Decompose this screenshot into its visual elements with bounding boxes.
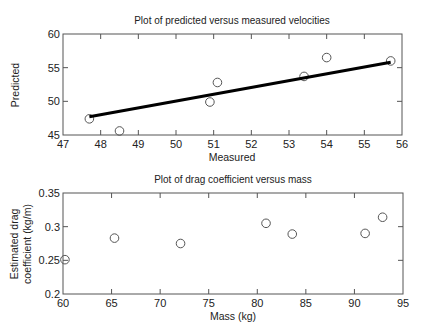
data-point-marker <box>262 219 271 228</box>
x-tick-label: 65 <box>105 297 117 309</box>
x-tick-label: 70 <box>154 297 166 309</box>
data-point-marker <box>213 78 222 87</box>
data-point-marker <box>206 98 215 107</box>
x-axis-label: Measured <box>209 151 256 163</box>
axis-ticks: 60657075808590950.20.250.30.35 <box>39 187 410 309</box>
x-tick-label: 51 <box>208 138 220 150</box>
axis-ticks: 4748495051525354555645505560 <box>48 28 408 150</box>
y-tick-label: 55 <box>48 62 60 74</box>
y-tick-label: 60 <box>48 28 60 40</box>
plot-frame <box>63 34 402 135</box>
y-axis-label-line-1: Estimated drag <box>8 209 20 280</box>
data-point-marker <box>378 213 387 222</box>
x-tick-label: 55 <box>358 138 370 150</box>
data-point-marker <box>176 239 185 248</box>
x-tick-label: 53 <box>283 138 295 150</box>
data-point-marker <box>361 229 370 238</box>
y-tick-label: 45 <box>48 129 60 141</box>
chart-title: Plot of predicted versus measured veloci… <box>134 15 330 26</box>
chart-title: Plot of drag coefficient versus mass <box>154 174 312 185</box>
x-tick-label: 80 <box>251 297 263 309</box>
x-tick-label: 48 <box>95 138 107 150</box>
data-series <box>61 213 387 264</box>
data-series <box>85 53 395 135</box>
x-tick-label: 50 <box>170 138 182 150</box>
y-tick-label: 0.35 <box>39 187 60 199</box>
x-tick-label: 90 <box>348 297 360 309</box>
x-axis-label: Mass (kg) <box>210 310 256 322</box>
y-tick-label: 0.3 <box>45 221 60 233</box>
x-tick-label: 95 <box>397 297 409 309</box>
x-tick-label: 85 <box>300 297 312 309</box>
data-point-marker <box>115 127 124 136</box>
x-tick-label: 75 <box>203 297 215 309</box>
y-tick-label: 0.2 <box>45 288 60 300</box>
y-axis-label: Predicted <box>9 63 21 108</box>
plot-frame <box>63 193 403 294</box>
axes-box <box>63 193 403 294</box>
data-point-marker <box>288 230 297 239</box>
data-point-marker <box>110 234 119 243</box>
x-tick-label: 49 <box>132 138 144 150</box>
velocity-chart: Plot of predicted versus measured veloci… <box>9 15 408 163</box>
figure: Plot of predicted versus measured veloci… <box>0 0 421 334</box>
axes-box <box>63 34 402 135</box>
x-tick-label: 56 <box>396 138 408 150</box>
drag-coefficient-chart: Plot of drag coefficient versus mass 606… <box>8 174 409 322</box>
x-tick-label: 54 <box>321 138 333 150</box>
x-tick-label: 52 <box>245 138 257 150</box>
y-tick-label: 0.25 <box>39 254 60 266</box>
data-point-marker <box>61 255 70 264</box>
y-axis-label-line-2: coefficient (kg/m) <box>21 204 33 284</box>
fit-line <box>89 62 390 117</box>
data-point-marker <box>322 53 331 62</box>
y-tick-label: 50 <box>48 95 60 107</box>
